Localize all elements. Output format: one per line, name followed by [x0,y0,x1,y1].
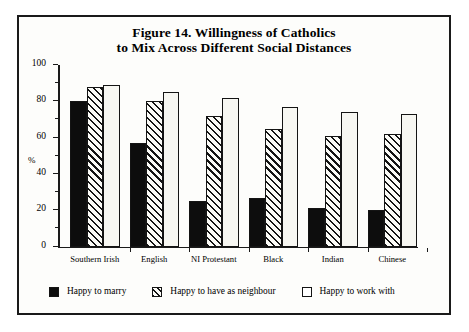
chart-legend: Happy to marryHappy to have as neighbour… [49,287,434,297]
y-axis-tick-label: 100 [32,59,46,69]
x-axis-line [58,247,418,249]
x-axis-tick [189,248,190,252]
y-axis-tick-label: 0 [41,241,46,251]
bar [265,129,282,247]
bar [130,143,147,246]
bar-group [249,64,299,247]
y-axis-tick-major: 0 [53,246,58,247]
bar [368,210,385,246]
x-axis-label: Black [263,255,283,264]
legend-item: Happy to have as neighbour [152,287,275,297]
bar [87,87,104,247]
legend-label: Happy to have as neighbour [170,287,275,296]
legend-item: Happy to marry [49,287,126,297]
x-axis-tick [427,248,428,252]
y-axis-tick-label: 40 [37,168,47,178]
y-axis-line [58,65,60,248]
bar [308,208,325,246]
y-axis-tick-minor [55,82,59,83]
legend-label: Happy to work with [320,287,395,296]
bar-group [308,64,358,247]
legend-swatch-icon [302,287,312,297]
x-axis-label: English [141,255,167,264]
y-axis-tick-major: 80 [53,100,58,101]
x-axis-label: Chinese [378,255,406,264]
bar [163,92,180,246]
bar-group [70,64,120,247]
figure-frame: Figure 14. Willingness of Catholics to M… [17,15,451,315]
x-axis-tick [130,248,131,252]
bar [70,101,87,246]
y-axis-tick-minor [55,118,59,119]
y-axis-tick-label: 60 [37,132,47,142]
legend-label: Happy to marry [67,287,126,296]
y-axis-tick-major: 40 [53,173,58,174]
bar-group [368,64,418,247]
legend-swatch-icon [152,287,162,297]
bar [222,98,239,247]
bar-group [189,64,239,247]
bar [384,134,401,247]
bar [206,116,223,247]
bar [146,101,163,246]
y-axis-tick-major: 20 [53,209,58,210]
chart-title-line-1: Figure 14. Willingness of Catholics [19,25,449,40]
x-axis-tick [249,248,250,252]
y-axis-tick-major: 100 [53,64,58,65]
bar-group [130,64,180,247]
y-axis-tick-label: 20 [37,204,47,214]
bar [249,198,266,247]
chart-title-line-2: to Mix Across Different Social Distances [19,40,449,55]
bar [325,136,342,247]
y-axis-tick-minor [55,191,59,192]
y-axis-title: % [28,155,36,165]
y-axis-tick-label: 80 [37,96,47,106]
y-axis-tick-major: 60 [53,137,58,138]
plot-area: % 020406080100 Southern IrishEnglishNI P… [58,65,418,248]
x-axis-label: Indian [322,255,344,264]
bar [189,201,206,246]
chart-title: Figure 14. Willingness of Catholics to M… [19,25,449,55]
bar [401,114,418,246]
bar [103,85,120,247]
legend-swatch-icon [49,287,59,297]
x-axis-tick [308,248,309,252]
x-axis-label: Southern Irish [70,255,119,264]
y-axis-tick-minor [55,227,59,228]
x-axis-tick [368,248,369,252]
y-axis-tick-minor [55,155,59,156]
bar [282,107,299,247]
x-axis-label: NI Protestant [191,255,237,264]
legend-item: Happy to work with [302,287,395,297]
bar [341,112,358,246]
